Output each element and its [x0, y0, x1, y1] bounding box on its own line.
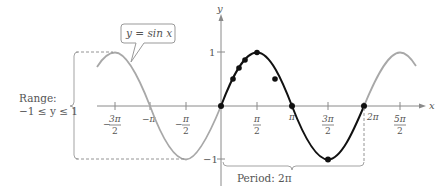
svg-text:π: π [253, 114, 261, 124]
y-tick-label-1: 1 [209, 47, 215, 58]
svg-text:−: − [175, 119, 183, 129]
sine-curve-right-extension [364, 53, 416, 107]
range-inequality: −1 ≤ y ≤ 1 [19, 105, 78, 117]
x-axis-arrow-icon [419, 104, 426, 109]
svg-text:2: 2 [254, 126, 260, 136]
x-tick-labels: − 3π 2 −π − π 2 π 2 π 3π 2 2π 5π 2 [103, 112, 407, 136]
range-label: Range: [19, 92, 57, 104]
sine-graph: y x 1 −1 − 3π 2 −π − π 2 π 2 π [0, 0, 447, 192]
svg-text:2π: 2π [366, 112, 380, 122]
y-tick-label-neg1: −1 [203, 154, 218, 165]
period-label: Period: 2π [237, 172, 292, 184]
svg-text:2: 2 [183, 126, 189, 136]
svg-text:2: 2 [325, 126, 331, 136]
svg-text:3π: 3π [109, 114, 122, 124]
x-axis-label: x [429, 100, 435, 111]
svg-text:2: 2 [397, 126, 403, 136]
svg-text:π: π [182, 114, 190, 124]
svg-text:2: 2 [112, 126, 118, 136]
svg-text:5π: 5π [394, 114, 407, 124]
y-axis-label: y [216, 3, 223, 14]
function-label: y = sin x [125, 27, 172, 39]
y-axis-arrow-icon [219, 14, 224, 21]
svg-text:3π: 3π [322, 114, 335, 124]
